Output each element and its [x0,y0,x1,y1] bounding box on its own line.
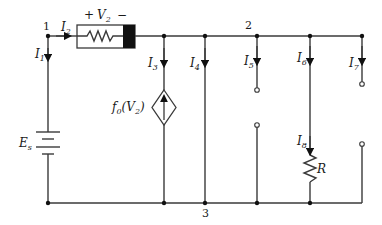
v2-minus-sign: − [117,8,127,22]
open-branch-i5 [255,36,260,203]
open-terminal-icon [255,88,260,93]
v2-plus-sign: + [84,8,94,22]
circuit-diagram: 1 2 3 + V2 − I2 I1 I3 I4 I5 I6 I7 I8 Es … [0,0,382,225]
node-1-label: 1 [43,20,50,33]
current-i2-label: I2 [60,20,71,36]
open-terminal-icon [255,123,260,128]
v2-label: V2 [97,8,111,24]
dependent-source-branch [152,36,176,203]
node-2-label: 2 [245,19,252,32]
box-element [77,25,135,48]
current-i4-label: I4 [189,56,200,72]
current-i7-label: I7 [348,56,360,72]
current-i8-label: I8 [296,134,307,150]
current-i3-label: I3 [147,56,158,72]
node-3-label: 3 [202,207,209,220]
resistor-r-icon [304,155,316,182]
open-terminal-icon [360,82,365,87]
battery-icon [36,132,60,154]
open-terminal-icon [360,142,365,147]
source-es-label: Es [18,136,32,152]
current-i1-label: I1 [34,47,45,63]
resistor-r-label: R [316,162,326,176]
current-i5-label: I5 [243,54,254,70]
dependent-source-label: f0(V2) [111,100,145,116]
current-i6-label: I6 [296,51,307,67]
open-branch-i7 [360,36,365,203]
